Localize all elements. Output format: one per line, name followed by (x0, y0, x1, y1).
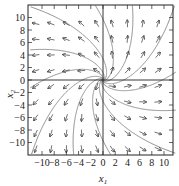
y-tick-label: −10 (9, 137, 25, 148)
field-arrow (95, 37, 99, 43)
field-arrow (142, 20, 143, 27)
field-arrow (141, 52, 145, 58)
field-arrow (96, 130, 98, 137)
x-tick-label: −4 (73, 157, 84, 168)
y-tick-labels: −10−8−6−4−20246810 (9, 12, 25, 148)
field-arrow (49, 114, 52, 120)
field-arrow (35, 145, 37, 152)
field-arrow (156, 52, 160, 57)
field-arrow (140, 132, 146, 135)
trajectory-curve (93, 80, 111, 155)
field-arrow (50, 145, 51, 152)
x-tick-label: 2 (113, 157, 118, 168)
field-arrow (111, 20, 113, 27)
field-arrow (124, 101, 131, 103)
field-arrow (64, 84, 70, 88)
field-arrow (81, 130, 82, 137)
y-tick-label: 2 (20, 62, 25, 73)
field-arrow (34, 115, 38, 121)
field-arrow (110, 130, 114, 136)
field-arrow (125, 68, 130, 73)
x-tick-label: −10 (34, 157, 50, 168)
field-arrow (32, 55, 39, 56)
x-tick-label: −8 (49, 157, 60, 168)
field-arrow (48, 23, 55, 25)
field-arrow (48, 84, 54, 88)
field-arrow (32, 23, 39, 25)
field-arrow (142, 36, 144, 43)
field-arrow (48, 70, 55, 72)
x-axis-label: x1 (98, 172, 107, 186)
field-arrow (127, 36, 128, 43)
field-arrow (140, 147, 146, 151)
y-tick-label: 4 (20, 50, 25, 61)
field-arrow (96, 145, 99, 152)
field-arrow (154, 117, 161, 118)
field-arrow (63, 55, 70, 56)
x-tick-label: −6 (61, 157, 72, 168)
field-arrow (124, 85, 131, 87)
y-tick-label: 0 (20, 75, 25, 86)
trajectory-curve (30, 69, 103, 88)
trajectory-curve (103, 72, 176, 91)
y-tick-label: 8 (20, 25, 25, 36)
field-arrow (79, 84, 84, 89)
vector-field-arrows (32, 20, 161, 152)
phase-portrait-svg: −10−8−6−4−20246810 −10−8−6−4−20246810 x1… (0, 0, 179, 186)
y-tick-label: 10 (15, 12, 25, 23)
x-tick-label: −2 (85, 157, 96, 168)
x-tick-label: 4 (125, 157, 130, 168)
trajectory-curve (30, 49, 104, 80)
field-arrow (33, 99, 38, 104)
field-arrow (109, 86, 116, 87)
trajectory-curve (102, 80, 176, 111)
x-tick-label: 10 (159, 157, 169, 168)
field-arrow (124, 116, 130, 119)
phase-portrait-chart: −10−8−6−4−20246810 −10−8−6−4−20246810 x1… (0, 0, 179, 186)
y-tick-label: −4 (14, 100, 25, 111)
field-arrow (33, 84, 39, 88)
field-arrow (66, 130, 67, 137)
field-arrow (110, 115, 115, 120)
field-arrow (154, 102, 161, 103)
trajectory-curve (95, 6, 113, 81)
origin-axes (28, 5, 173, 155)
field-arrow (95, 21, 99, 27)
y-tick-label: −6 (14, 112, 25, 123)
field-arrow (140, 68, 145, 72)
field-arrow (96, 98, 97, 105)
field-arrow (33, 69, 40, 71)
field-arrow (79, 21, 84, 26)
field-arrow (155, 69, 161, 73)
x-tick-label: 8 (149, 157, 154, 168)
field-arrow (95, 52, 100, 57)
field-arrow (139, 117, 146, 119)
trajectory-curve (31, 7, 107, 80)
field-arrow (126, 52, 128, 59)
y-tick-label: −8 (14, 125, 25, 136)
field-arrow (125, 146, 130, 151)
x-tick-labels: −10−8−6−4−20246810 (34, 157, 169, 168)
field-arrow (157, 20, 159, 27)
field-arrow (64, 99, 68, 105)
field-arrow (50, 130, 52, 137)
field-arrow (79, 37, 85, 41)
field-arrow (96, 114, 98, 121)
field-arrow (65, 114, 67, 121)
trajectory-curve (73, 79, 103, 155)
field-arrow (63, 38, 70, 40)
field-arrow (155, 132, 162, 134)
field-arrow (110, 146, 114, 152)
trajectory-curve (99, 80, 175, 153)
y-axis-label: x2 (3, 89, 17, 99)
trajectory-curve (103, 6, 175, 84)
x-tick-label: 6 (137, 157, 142, 168)
field-arrow (112, 52, 113, 59)
x-tick-label: 0 (101, 157, 106, 168)
field-arrow (49, 99, 54, 104)
y-tick-label: 6 (20, 37, 25, 48)
field-arrow (48, 39, 55, 40)
field-arrow (155, 85, 162, 87)
field-arrow (81, 145, 82, 152)
field-arrow (125, 131, 130, 135)
